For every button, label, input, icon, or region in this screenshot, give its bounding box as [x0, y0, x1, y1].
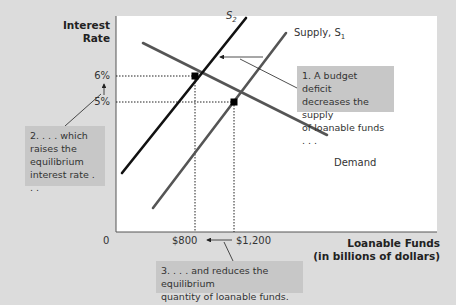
- equilibrium-point-original: [231, 99, 238, 106]
- loanable-funds-chart: Interest Rate Loanable Funds (in billion…: [0, 0, 456, 305]
- x-axis-title: Loanable Funds (in billions of dollars): [300, 237, 440, 263]
- callout1-line: of loanable funds . . .: [302, 121, 389, 147]
- x-axis-title-line2: (in billions of dollars): [300, 250, 440, 263]
- s2-label: S2: [226, 10, 237, 26]
- s1-label-subscript: 1: [341, 33, 345, 41]
- supply-s2-curve: [122, 18, 246, 173]
- leader-line-3: [224, 242, 233, 261]
- origin-label: 0: [103, 235, 109, 247]
- callout2-line: 2. . . . which: [30, 129, 100, 142]
- callout2-line: interest rate . . .: [30, 168, 100, 194]
- callout-raises-rate: 2. . . . which raises the equilibrium in…: [25, 126, 105, 186]
- x-axis-title-line1: Loanable Funds: [300, 237, 440, 250]
- callout-budget-deficit: 1. A budget deficit decreases the supply…: [297, 66, 394, 112]
- y-axis-title-line1: Interest: [50, 19, 110, 32]
- demand-label: Demand: [334, 157, 376, 169]
- callout2-line: raises the: [30, 142, 100, 155]
- callout3-line: quantity of loanable funds.: [161, 290, 298, 303]
- x-tick-1200: $1,200: [236, 235, 271, 247]
- callout3-line: 3. . . . and reduces the equilibrium: [161, 264, 298, 290]
- s2-label-subscript: 2: [232, 16, 236, 24]
- y-tick-5pct: 5%: [86, 96, 110, 108]
- callout-reduces-quantity: 3. . . . and reduces the equilibrium qua…: [156, 261, 303, 293]
- callout2-line: equilibrium: [30, 155, 100, 168]
- callout1-line: decreases the supply: [302, 95, 389, 121]
- callout1-line: 1. A budget deficit: [302, 69, 389, 95]
- s1-label-text: Supply, S: [294, 27, 341, 38]
- y-tick-6pct: 6%: [86, 70, 110, 82]
- y-axis-title: Interest Rate: [50, 19, 110, 45]
- x-tick-800: $800: [172, 235, 197, 247]
- equilibrium-point-new: [192, 73, 199, 80]
- s1-label: Supply, S1: [294, 27, 345, 43]
- y-axis-title-line2: Rate: [50, 32, 110, 45]
